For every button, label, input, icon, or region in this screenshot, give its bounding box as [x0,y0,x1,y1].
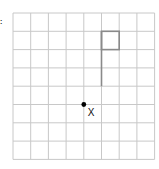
flag-box [102,31,120,49]
grid-lines [13,13,155,159]
flag-shape [102,31,120,86]
point-label: X [88,107,95,118]
grid-diagram: X [0,0,159,169]
point-dot [81,102,86,107]
